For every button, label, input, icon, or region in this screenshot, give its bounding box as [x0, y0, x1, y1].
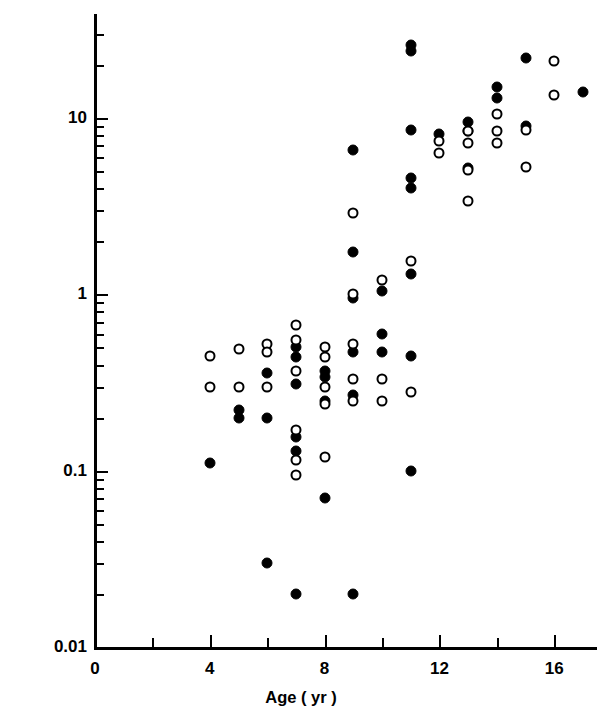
y-tick-minor	[97, 365, 104, 367]
y-tick-minor	[97, 418, 104, 420]
y-tick-minor	[97, 135, 104, 137]
data-point-open	[405, 386, 416, 397]
data-point-open	[290, 335, 301, 346]
y-tick-minor	[97, 34, 104, 36]
data-point-open	[348, 395, 359, 406]
y-tick-minor	[97, 210, 104, 212]
data-point-open	[549, 90, 560, 101]
data-point-filled	[405, 172, 416, 183]
x-tick-minor	[382, 638, 384, 647]
data-point-open	[434, 148, 445, 159]
data-point-open	[204, 350, 215, 361]
x-tick-major	[210, 635, 212, 647]
y-tick-minor	[97, 334, 104, 336]
y-tick-major	[97, 647, 108, 649]
data-point-open	[290, 469, 301, 480]
y-tick-minor	[97, 524, 104, 526]
data-point-filled	[348, 144, 359, 155]
data-point-open	[319, 451, 330, 462]
data-point-open	[405, 255, 416, 266]
data-point-open	[491, 125, 502, 136]
y-tick-label: 0.1	[10, 461, 87, 481]
data-point-filled	[405, 46, 416, 57]
y-tick-minor	[97, 498, 104, 500]
data-point-open	[463, 195, 474, 206]
y-tick-minor	[97, 171, 104, 173]
data-point-filled	[405, 350, 416, 361]
data-point-filled	[290, 352, 301, 363]
data-point-open	[377, 275, 388, 286]
y-tick-minor	[97, 387, 104, 389]
y-tick-minor	[97, 510, 104, 512]
data-point-filled	[405, 124, 416, 135]
x-tick-label: 4	[205, 659, 214, 679]
y-tick-minor	[97, 541, 104, 543]
x-tick-label: 0	[90, 659, 99, 679]
y-tick-minor	[97, 311, 104, 313]
y-tick-minor	[97, 126, 104, 128]
data-point-filled	[262, 557, 273, 568]
data-point-open	[377, 395, 388, 406]
y-tick-minor	[97, 145, 104, 147]
data-point-open	[463, 164, 474, 175]
data-point-open	[463, 138, 474, 149]
x-tick-minor	[152, 638, 154, 647]
y-tick-minor	[97, 488, 104, 490]
x-tick-label: 12	[430, 659, 449, 679]
data-point-open	[491, 138, 502, 149]
x-tick-label: 8	[320, 659, 329, 679]
data-point-filled	[520, 52, 531, 63]
data-point-filled	[405, 465, 416, 476]
data-point-open	[204, 381, 215, 392]
x-tick-major	[95, 635, 97, 647]
data-point-open	[348, 289, 359, 300]
data-point-open	[491, 108, 502, 119]
x-tick-major	[325, 635, 327, 647]
data-point-open	[290, 365, 301, 376]
x-tick-minor	[267, 638, 269, 647]
y-tick-major	[97, 471, 108, 473]
y-tick-minor	[97, 65, 104, 67]
data-point-open	[319, 381, 330, 392]
data-point-open	[262, 381, 273, 392]
data-point-open	[233, 381, 244, 392]
y-tick-minor	[97, 241, 104, 243]
data-point-open	[290, 320, 301, 331]
data-point-open	[377, 374, 388, 385]
data-point-open	[319, 352, 330, 363]
data-point-filled	[348, 588, 359, 599]
data-point-filled	[290, 379, 301, 390]
y-axis-line	[94, 14, 97, 649]
y-tick-label: 10	[10, 108, 87, 128]
data-point-open	[290, 425, 301, 436]
data-point-filled	[577, 87, 588, 98]
y-tick-minor	[97, 322, 104, 324]
data-point-open	[520, 161, 531, 172]
data-point-filled	[348, 246, 359, 257]
x-tick-label: 16	[545, 659, 564, 679]
y-tick-major	[97, 118, 108, 120]
data-point-open	[290, 454, 301, 465]
data-point-filled	[377, 285, 388, 296]
data-point-filled	[377, 328, 388, 339]
data-point-open	[520, 124, 531, 135]
y-tick-minor	[97, 479, 104, 481]
data-point-open	[262, 347, 273, 358]
data-point-filled	[262, 412, 273, 423]
y-tick-label: 0.01	[10, 637, 87, 657]
scatter-plot-figure: Level of hLH in Serum (IU/l) Age ( yr ) …	[0, 0, 602, 723]
data-point-filled	[262, 367, 273, 378]
y-tick-minor	[97, 347, 104, 349]
data-point-filled	[233, 412, 244, 423]
data-point-open	[549, 56, 560, 67]
plot-area: 0.010.11100481216	[0, 0, 602, 723]
data-point-filled	[405, 269, 416, 280]
data-point-filled	[491, 82, 502, 93]
data-point-filled	[377, 347, 388, 358]
data-point-filled	[319, 493, 330, 504]
data-point-filled	[405, 183, 416, 194]
data-point-open	[434, 136, 445, 147]
data-point-open	[233, 344, 244, 355]
y-tick-minor	[97, 157, 104, 159]
y-tick-minor	[97, 302, 104, 304]
